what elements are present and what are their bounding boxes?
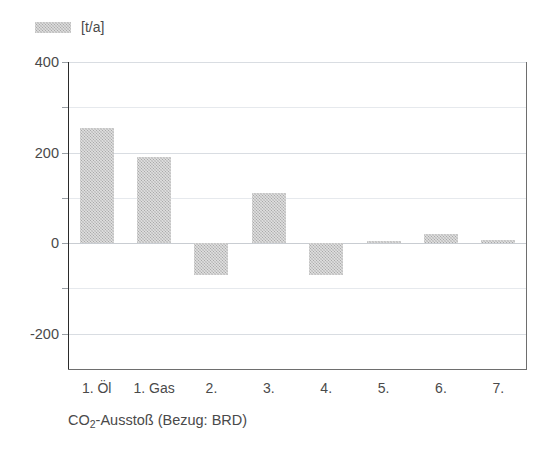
y-axis-line: [68, 62, 69, 370]
chart-figure: [t/a] 4002000-200 1. Öl1. Gas2.3.4.5.6.7…: [0, 0, 557, 455]
plot-bottom-border: [68, 369, 527, 370]
x-tick-label: 3.: [263, 380, 275, 396]
x-axis-labels: 1. Öl1. Gas2.3.4.5.6.7.: [68, 380, 527, 400]
plot-area: 4002000-200: [68, 62, 527, 370]
caption-prefix: CO: [68, 412, 90, 428]
y-tick-label: -200: [30, 326, 59, 342]
plot-right-border: [526, 62, 527, 370]
x-tick-label: 7.: [492, 380, 504, 396]
x-tick-label: 1. Gas: [133, 380, 174, 396]
x-tick-label: 6.: [435, 380, 447, 396]
y-tick-label: 200: [35, 145, 59, 161]
bar: [424, 234, 458, 243]
bar: [481, 240, 515, 244]
caption-subscript: 2: [90, 418, 96, 430]
legend-swatch-icon: [35, 22, 71, 33]
bar-series: [68, 62, 527, 370]
bar: [309, 243, 343, 275]
bar: [194, 243, 228, 275]
x-tick-label: 5.: [378, 380, 390, 396]
x-tick-label: 2.: [206, 380, 218, 396]
bar: [137, 157, 171, 243]
x-tick-label: 4.: [320, 380, 332, 396]
x-tick-label: 1. Öl: [82, 380, 112, 396]
caption-suffix: -Ausstoß (Bezug: BRD): [96, 412, 248, 428]
bar: [252, 193, 286, 243]
chart-caption: CO2-Ausstoß (Bezug: BRD): [68, 412, 247, 428]
y-tick-label: 0: [51, 235, 59, 251]
bar: [367, 241, 401, 243]
chart-legend: [t/a]: [35, 18, 104, 36]
legend-label: [t/a]: [81, 20, 104, 34]
y-tick-label: 400: [35, 54, 59, 70]
bar: [80, 128, 114, 244]
